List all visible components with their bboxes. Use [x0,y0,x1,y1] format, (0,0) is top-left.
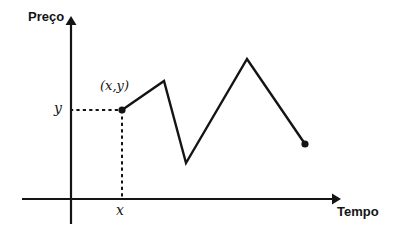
price-time-figure: Preço Tempo y x (x,y) [0,0,400,239]
y-axis-label: Preço [28,9,64,24]
x-axis-label: Tempo [337,204,379,219]
price-series-polyline [122,59,305,163]
y-tick-label: y [54,100,62,116]
x-tick-label: x [116,202,124,218]
y-axis-arrowhead [66,16,77,25]
x-axis-arrowhead [332,194,341,205]
point-marker-xy [118,106,125,113]
point-coordinate-label: (x,y) [100,78,129,93]
point-marker-endpoint [301,140,308,147]
